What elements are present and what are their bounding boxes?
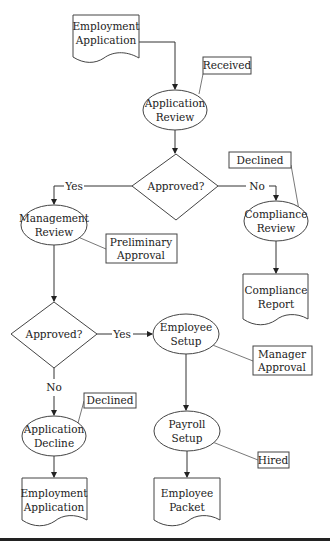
svg-text:Approval: Approval xyxy=(257,361,307,373)
svg-text:Review: Review xyxy=(156,111,195,123)
label-decision2-no: No xyxy=(46,381,62,393)
process-application-review[interactable]: Application Review xyxy=(143,90,207,130)
svg-text:Application: Application xyxy=(23,423,85,435)
svg-text:Employee: Employee xyxy=(161,487,213,499)
annotation-manager-approval[interactable]: Manager Approval xyxy=(253,346,312,375)
svg-text:Setup: Setup xyxy=(171,432,202,444)
process-payroll-setup[interactable]: Payroll Setup xyxy=(154,411,220,451)
annotation-preliminary-approval[interactable]: Preliminary Approval xyxy=(106,234,177,263)
process-application-decline[interactable]: Application Decline xyxy=(22,416,86,456)
decision-approved-1[interactable]: Approved? xyxy=(132,154,218,220)
svg-text:Compliance: Compliance xyxy=(245,208,308,220)
svg-text:Compliance: Compliance xyxy=(245,284,308,296)
svg-text:Report: Report xyxy=(258,298,295,310)
svg-text:Application: Application xyxy=(75,34,137,46)
svg-text:Setup: Setup xyxy=(170,335,201,347)
edge-doc-to-app-review xyxy=(139,42,175,89)
svg-text:Approval: Approval xyxy=(116,249,166,261)
decision-approved-2[interactable]: Approved? xyxy=(11,302,97,368)
svg-text:Employee: Employee xyxy=(160,321,212,333)
process-compliance-review[interactable]: Compliance Review xyxy=(244,201,308,241)
svg-text:Preliminary: Preliminary xyxy=(110,236,172,248)
svg-text:Declined: Declined xyxy=(87,394,134,406)
svg-text:Application: Application xyxy=(23,501,85,513)
svg-text:Received: Received xyxy=(203,59,252,71)
bottom-rule xyxy=(0,538,330,541)
label-decision1-yes: Yes xyxy=(64,180,83,192)
annotation-received[interactable]: Received xyxy=(203,57,252,74)
svg-text:Application: Application xyxy=(144,97,206,109)
lead-received xyxy=(199,74,203,94)
svg-text:Decline: Decline xyxy=(34,437,74,449)
svg-text:Employment: Employment xyxy=(72,20,140,32)
document-employment-application-top[interactable]: Employment Application xyxy=(72,15,140,62)
edge-decision1-no-b xyxy=(269,186,276,200)
lead-preliminary xyxy=(78,237,106,249)
process-employee-setup[interactable]: Employee Setup xyxy=(153,314,219,354)
annotation-hired[interactable]: Hired xyxy=(258,452,289,468)
svg-text:Approved?: Approved? xyxy=(147,180,205,192)
svg-text:Approved?: Approved? xyxy=(25,328,83,340)
svg-text:Management: Management xyxy=(19,212,90,224)
svg-text:Declined: Declined xyxy=(237,154,284,166)
document-employee-packet[interactable]: Employee Packet xyxy=(154,478,220,526)
lead-manager-approval xyxy=(210,344,253,361)
label-decision2-yes: Yes xyxy=(112,328,131,340)
svg-text:Review: Review xyxy=(35,226,74,238)
flowchart-canvas: Yes No Yes No Employment Application Rec… xyxy=(0,0,330,547)
document-compliance-report[interactable]: Compliance Report xyxy=(243,274,308,325)
process-management-review[interactable]: Management Review xyxy=(19,205,90,245)
svg-text:Payroll: Payroll xyxy=(169,418,206,430)
lead-declined-2 xyxy=(78,401,84,423)
svg-text:Review: Review xyxy=(257,222,296,234)
svg-text:Hired: Hired xyxy=(258,454,289,466)
annotation-declined-2[interactable]: Declined xyxy=(84,393,136,408)
svg-text:Employment: Employment xyxy=(20,487,88,499)
label-decision1-no: No xyxy=(249,180,265,192)
svg-text:Packet: Packet xyxy=(169,501,205,513)
svg-text:Manager: Manager xyxy=(258,348,307,360)
annotation-declined-1[interactable]: Declined xyxy=(229,152,291,168)
lead-hired xyxy=(210,441,258,460)
document-employment-application-bottom[interactable]: Employment Application xyxy=(20,478,88,526)
edge-decision1-yes-b xyxy=(54,186,64,204)
